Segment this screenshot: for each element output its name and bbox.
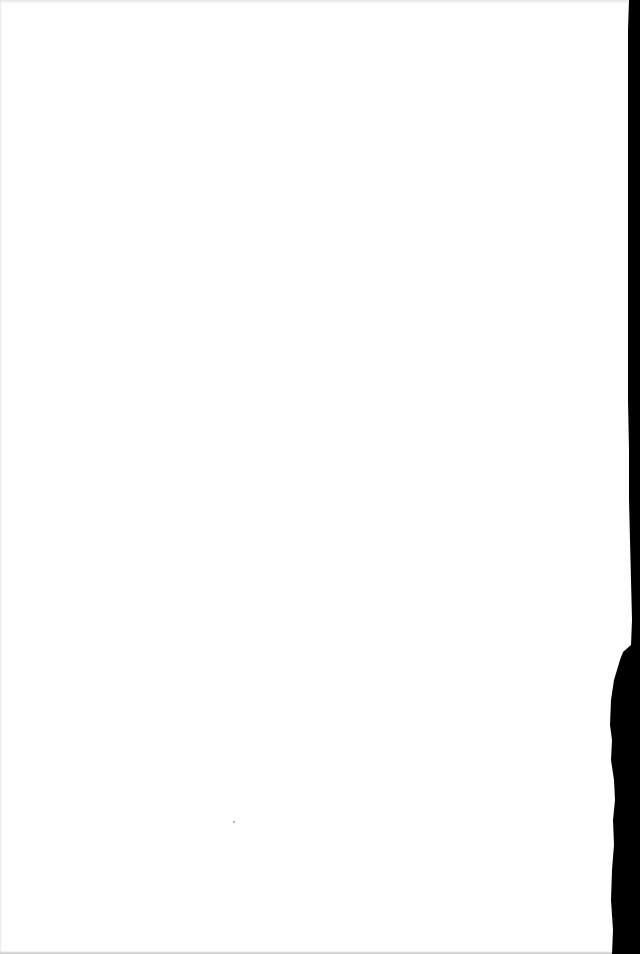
right-scan-edge bbox=[0, 0, 640, 954]
dust-speck bbox=[233, 821, 235, 823]
blank-page bbox=[0, 0, 640, 954]
